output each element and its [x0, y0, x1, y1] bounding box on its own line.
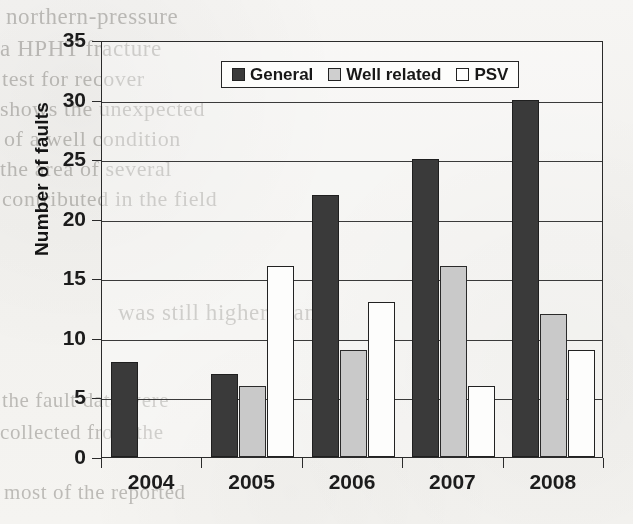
y-tick-label-5: 5	[40, 385, 86, 409]
x-tick-3	[402, 458, 403, 468]
x-tick-label-2007: 2007	[402, 470, 502, 494]
x-tick-label-2008: 2008	[503, 470, 603, 494]
y-tick-label-0: 0	[40, 445, 86, 469]
y-tick-5	[92, 398, 101, 399]
plot-area	[101, 41, 603, 458]
y-tick-15	[92, 279, 101, 280]
y-tick-20	[92, 220, 101, 221]
bar-chart: Number of faults 05101520253035 20042005…	[0, 0, 633, 524]
y-tick-label-15: 15	[40, 266, 86, 290]
y-tick-35	[92, 41, 101, 42]
y-tick-0	[92, 458, 101, 459]
y-tick-label-20: 20	[40, 207, 86, 231]
y-tick-label-30: 30	[40, 88, 86, 112]
legend-entry-general: General	[232, 65, 313, 85]
legend-swatch-icon	[232, 68, 245, 81]
x-tick-2	[302, 458, 303, 468]
y-tick-label-35: 35	[40, 28, 86, 52]
legend-entry-psv: PSV	[456, 65, 508, 85]
chart-legend: GeneralWell relatedPSV	[221, 61, 519, 88]
x-tick-label-2005: 2005	[202, 470, 302, 494]
x-tick-0	[101, 458, 102, 468]
bar-2008-well-related	[540, 314, 567, 457]
bar-2008-psv	[568, 350, 595, 457]
y-tick-label-10: 10	[40, 326, 86, 350]
legend-swatch-icon	[456, 68, 469, 81]
y-tick-label-25: 25	[40, 147, 86, 171]
x-tick-4	[503, 458, 504, 468]
x-tick-label-2004: 2004	[101, 470, 201, 494]
legend-label: Well related	[346, 65, 441, 85]
x-tick-label-2006: 2006	[302, 470, 402, 494]
bar-2008-general	[512, 100, 539, 457]
y-tick-10	[92, 339, 101, 340]
legend-label: General	[250, 65, 313, 85]
y-tick-30	[92, 101, 101, 102]
y-tick-25	[92, 160, 101, 161]
legend-label: PSV	[474, 65, 508, 85]
x-tick-5	[603, 458, 604, 468]
legend-swatch-icon	[328, 68, 341, 81]
x-tick-1	[201, 458, 202, 468]
scanned-page: northern-pressure a HPHT fracture test f…	[0, 0, 633, 524]
bar-group-2008	[102, 42, 602, 457]
legend-entry-well-related: Well related	[328, 65, 441, 85]
